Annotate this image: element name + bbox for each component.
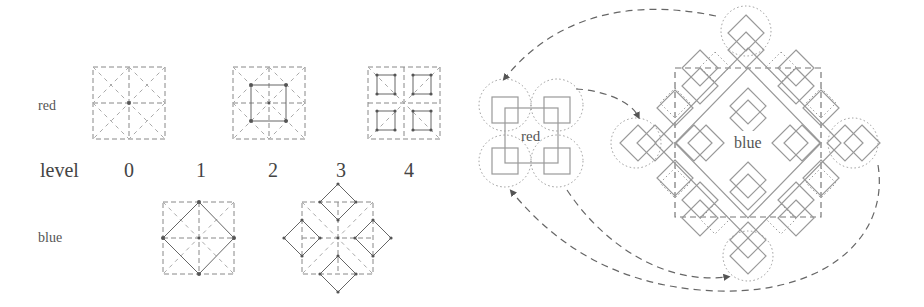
row-label-blue: blue <box>38 230 62 245</box>
blue-cluster: blue <box>611 6 880 281</box>
multilevel-grid-diagram: red blue level 0 1 2 3 4 <box>0 0 924 307</box>
red-level-4-grid <box>368 67 440 139</box>
level-4: 4 <box>404 159 414 181</box>
level-3: 3 <box>336 159 346 181</box>
level-0: 0 <box>124 159 134 181</box>
blue-level-1-grid <box>161 200 236 276</box>
level-2: 2 <box>268 159 278 181</box>
red-cluster-label: red <box>521 128 541 144</box>
red-level-2-grid <box>233 67 305 139</box>
blue-level-3-grid <box>282 182 392 293</box>
level-1: 1 <box>196 159 206 181</box>
exchange-arrows <box>505 9 879 291</box>
row-label-red: red <box>38 98 56 113</box>
blue-cluster-label: blue <box>734 134 762 151</box>
red-level-0-grid <box>93 67 165 139</box>
level-title: level <box>40 159 79 181</box>
red-cluster: red <box>479 79 583 187</box>
